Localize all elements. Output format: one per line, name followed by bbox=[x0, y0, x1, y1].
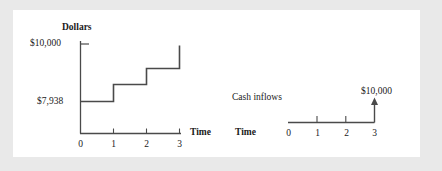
left-chart-group bbox=[80, 41, 181, 134]
right-chart-tick-label-1: 1 bbox=[312, 129, 323, 139]
left-chart-y-label-top: $10,000 bbox=[30, 39, 61, 49]
right-chart-series-label: Cash inflows bbox=[232, 93, 282, 103]
figure-container: Dollars $10,000 $7,938 0 1 2 3 Time Cash… bbox=[0, 0, 442, 171]
right-chart-inflow-arrow-head bbox=[371, 98, 378, 106]
right-chart-group bbox=[288, 98, 378, 123]
left-chart-tick-label-0: 0 bbox=[75, 140, 86, 150]
left-chart-tick-label-1: 1 bbox=[108, 140, 119, 150]
left-chart-axis-title: Dollars bbox=[62, 23, 92, 33]
right-chart-tick-label-2: 2 bbox=[341, 129, 352, 139]
left-chart-x-axis-title: Time bbox=[190, 128, 211, 138]
right-chart-x-axis-title: Time bbox=[235, 128, 256, 138]
right-chart-inflow-label: $10,000 bbox=[361, 87, 392, 97]
left-chart-tick-label-3: 3 bbox=[174, 140, 185, 150]
left-chart-y-label-base: $7,938 bbox=[37, 97, 63, 107]
right-chart-tick-label-3: 3 bbox=[369, 129, 380, 139]
left-chart-step-series bbox=[81, 46, 180, 102]
left-chart-tick-label-2: 2 bbox=[141, 140, 152, 150]
right-chart-tick-label-0: 0 bbox=[283, 129, 294, 139]
